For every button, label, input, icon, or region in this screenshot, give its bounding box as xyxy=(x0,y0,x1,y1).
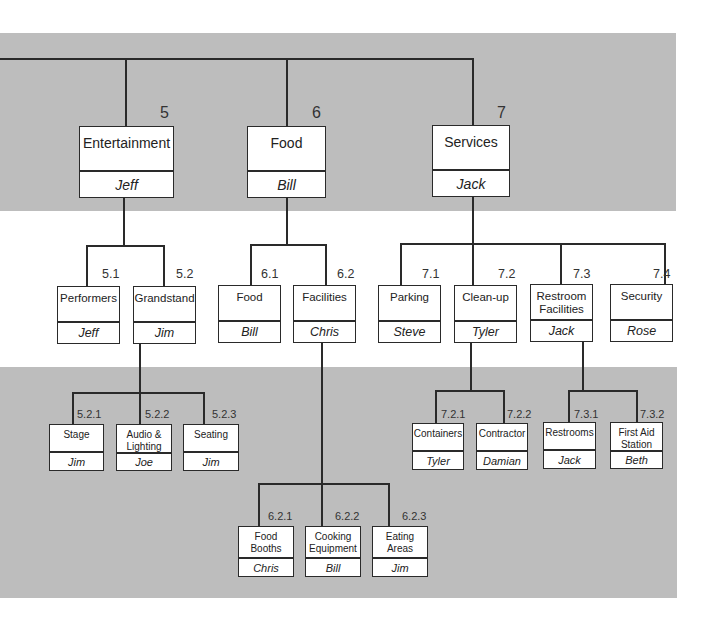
connector xyxy=(72,392,74,424)
node-title: Services xyxy=(433,126,509,169)
root-connector xyxy=(0,58,474,60)
node-title: Contractor xyxy=(477,424,527,450)
wbs-number: 7.4 xyxy=(653,267,670,281)
connector xyxy=(139,344,141,392)
connector xyxy=(258,483,260,526)
wbs-node-parking[interactable]: Parking Steve xyxy=(378,285,441,343)
wbs-node-security[interactable]: Security Rose xyxy=(610,284,673,342)
wbs-node-first-aid-station[interactable]: First Aid Station Beth xyxy=(610,422,663,469)
node-owner: Jim xyxy=(134,321,195,343)
node-title: Entertainment xyxy=(80,127,173,170)
wbs-node-containers[interactable]: Containers Tyler xyxy=(412,423,464,470)
connector xyxy=(86,245,88,286)
wbs-number: 5.2 xyxy=(176,267,193,281)
node-owner: Beth xyxy=(611,450,662,468)
wbs-number: 7.3 xyxy=(573,267,590,281)
node-title: Restrooms xyxy=(544,423,595,449)
wbs-node-services[interactable]: Services Jack xyxy=(432,125,510,197)
connector xyxy=(86,245,164,247)
node-owner: Tyler xyxy=(455,320,516,342)
wbs-number: 7.2.2 xyxy=(507,408,531,420)
node-owner: Rose xyxy=(611,319,672,341)
wbs-number: 5 xyxy=(160,104,169,122)
wbs-number: 7.2 xyxy=(498,267,515,281)
wbs-number: 7.3.2 xyxy=(640,408,664,420)
wbs-node-stage[interactable]: Stage Jim xyxy=(49,424,104,471)
node-title: Eating Areas xyxy=(373,527,427,557)
wbs-number: 6.2.2 xyxy=(335,510,359,522)
node-owner: Jim xyxy=(50,451,103,470)
node-owner: Bill xyxy=(306,557,360,576)
node-owner: Jeff xyxy=(58,321,119,343)
node-title: Clean-up xyxy=(455,286,516,320)
wbs-node-entertainment[interactable]: Entertainment Jeff xyxy=(79,126,174,198)
connector xyxy=(203,392,205,424)
wbs-node-seating[interactable]: Seating Jim xyxy=(183,424,239,471)
wbs-node-food-sub[interactable]: Food Bill xyxy=(218,285,281,343)
connector xyxy=(286,198,288,244)
node-owner: Jack xyxy=(531,319,592,341)
connector xyxy=(325,244,327,286)
connector xyxy=(472,197,474,286)
node-title: Seating xyxy=(184,425,238,451)
node-owner: Bill xyxy=(248,170,325,197)
wbs-node-food-booths[interactable]: Food Booths Chris xyxy=(238,526,294,577)
wbs-number: 6.2.3 xyxy=(402,510,426,522)
wbs-node-audio-lighting[interactable]: Audio & Lighting Joe xyxy=(116,424,172,471)
connector xyxy=(125,58,127,126)
connector xyxy=(388,483,390,526)
connector xyxy=(258,483,389,485)
node-title: Facilities xyxy=(294,286,355,320)
connector xyxy=(250,244,326,246)
connector xyxy=(123,198,125,245)
wbs-node-grandstand[interactable]: Grandstand Jim xyxy=(133,286,196,344)
connector xyxy=(568,390,637,392)
connector xyxy=(435,390,437,424)
node-title: Containers xyxy=(413,424,463,450)
connector xyxy=(139,392,141,424)
wbs-number: 6.2 xyxy=(337,267,354,281)
wbs-number: 7.3.1 xyxy=(574,408,598,420)
node-owner: Jack xyxy=(544,449,595,468)
connector xyxy=(400,243,665,245)
node-owner: Jim xyxy=(373,557,427,576)
wbs-number: 5.2.1 xyxy=(77,408,101,420)
node-owner: Jim xyxy=(184,451,238,470)
node-title: First Aid Station xyxy=(611,423,662,450)
node-owner: Steve xyxy=(379,320,440,342)
node-title: Food Booths xyxy=(239,527,293,557)
wbs-node-cooking-equipment[interactable]: Cooking Equipment Bill xyxy=(305,526,361,577)
connector xyxy=(470,343,472,390)
wbs-number: 5.1 xyxy=(102,267,119,281)
connector xyxy=(472,58,474,125)
wbs-node-contractor[interactable]: Contractor Damian xyxy=(476,423,528,470)
node-title: Audio & Lighting xyxy=(117,425,171,452)
connector xyxy=(321,483,323,526)
wbs-node-food[interactable]: Food Bill xyxy=(247,126,326,198)
connector xyxy=(163,245,165,286)
node-title: Security xyxy=(611,285,672,319)
connector xyxy=(568,390,570,424)
wbs-node-facilities[interactable]: Facilities Chris xyxy=(293,285,356,343)
wbs-number: 7.2.1 xyxy=(441,408,465,420)
wbs-node-performers[interactable]: Performers Jeff xyxy=(57,286,120,344)
node-owner: Jack xyxy=(433,169,509,196)
connector xyxy=(72,392,204,394)
node-title: Food xyxy=(248,127,325,170)
wbs-node-restroom-facilities[interactable]: Restroom Facilities Jack xyxy=(530,284,593,342)
wbs-number: 6 xyxy=(312,104,321,122)
connector xyxy=(503,390,505,424)
wbs-node-eating-areas[interactable]: Eating Areas Jim xyxy=(372,526,428,577)
wbs-node-restrooms[interactable]: Restrooms Jack xyxy=(543,422,596,469)
node-owner: Chris xyxy=(239,557,293,576)
node-owner: Joe xyxy=(117,452,171,470)
node-owner: Tyler xyxy=(413,450,463,469)
wbs-number: 5.2.2 xyxy=(145,408,169,420)
wbs-number: 5.2.3 xyxy=(212,408,236,420)
node-title: Stage xyxy=(50,425,103,451)
connector xyxy=(286,58,288,126)
wbs-number: 6.2.1 xyxy=(268,510,292,522)
node-owner: Chris xyxy=(294,320,355,342)
node-title: Grandstand xyxy=(134,287,195,321)
wbs-node-clean-up[interactable]: Clean-up Tyler xyxy=(454,285,517,343)
